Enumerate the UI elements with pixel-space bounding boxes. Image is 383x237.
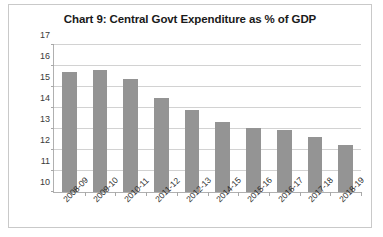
bar-slot bbox=[269, 45, 300, 192]
bar-slot bbox=[300, 45, 331, 192]
chart-frame: Chart 9: Central Govt Expenditure as % o… bbox=[8, 4, 372, 228]
bar-slot bbox=[330, 45, 361, 192]
x-axis-tick-mark bbox=[330, 192, 331, 196]
x-axis-tick-mark bbox=[115, 192, 116, 196]
bar-series bbox=[54, 45, 361, 192]
bar[interactable] bbox=[185, 110, 200, 192]
x-axis-tick-mark bbox=[177, 192, 178, 196]
plot-area: 1011121314151617 2008-092009-102010-1120… bbox=[53, 45, 361, 193]
plot-wrapper: 1011121314151617 2008-092009-102010-1120… bbox=[31, 45, 361, 193]
bar-slot bbox=[238, 45, 269, 192]
x-axis-tick-mark bbox=[208, 192, 209, 196]
chart-title: Chart 9: Central Govt Expenditure as % o… bbox=[9, 13, 371, 25]
x-axis-tick-mark bbox=[85, 192, 86, 196]
bar-slot bbox=[85, 45, 116, 192]
y-axis-tick-label: 15 bbox=[40, 72, 50, 82]
y-axis-tick-label: 14 bbox=[40, 93, 50, 103]
x-axis-tick-mark bbox=[269, 192, 270, 196]
y-axis-tick-label: 13 bbox=[40, 114, 50, 124]
y-axis-tick-label: 17 bbox=[40, 30, 50, 40]
bar-slot bbox=[54, 45, 85, 192]
bar-slot bbox=[208, 45, 239, 192]
bar[interactable] bbox=[62, 72, 77, 192]
bar-slot bbox=[177, 45, 208, 192]
y-axis-tick-label: 10 bbox=[40, 177, 50, 187]
bar-slot bbox=[146, 45, 177, 192]
bar[interactable] bbox=[93, 70, 108, 192]
x-axis-tick-mark bbox=[238, 192, 239, 196]
y-axis-tick-label: 12 bbox=[40, 135, 50, 145]
y-axis-tick-label: 16 bbox=[40, 51, 50, 61]
bar-slot bbox=[115, 45, 146, 192]
x-axis-tick-mark bbox=[146, 192, 147, 196]
x-axis-tick-mark bbox=[300, 192, 301, 196]
x-axis-tick-mark bbox=[361, 192, 362, 196]
bar[interactable] bbox=[123, 79, 138, 192]
y-axis-tick-label: 11 bbox=[41, 156, 50, 166]
bar[interactable] bbox=[154, 98, 169, 193]
